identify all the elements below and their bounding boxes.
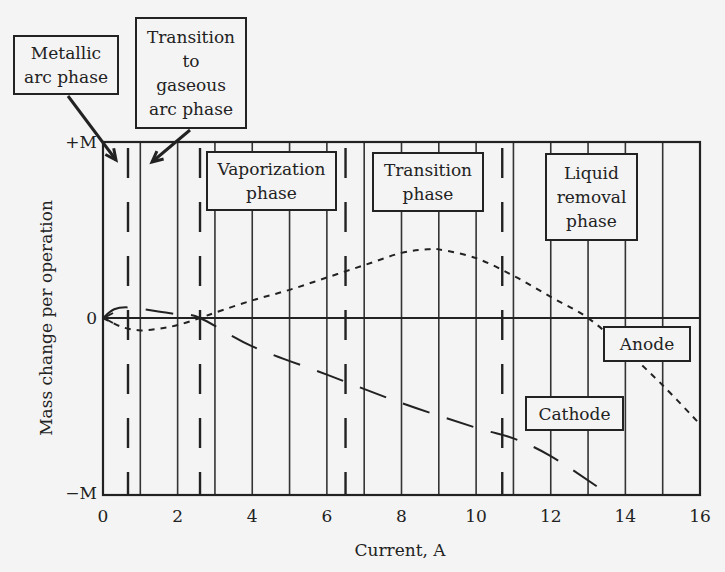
- annotation-liquid: Liquidremovalphase: [546, 154, 637, 240]
- svg-text:phase: phase: [566, 211, 617, 231]
- annotation-anode: Anode: [604, 327, 690, 361]
- x-tick-label: 14: [615, 506, 637, 526]
- x-tick-label: 6: [321, 506, 332, 526]
- transition-gaseous-arrow: [152, 130, 190, 162]
- svg-text:removal: removal: [557, 187, 627, 207]
- x-tick-label: 0: [98, 506, 109, 526]
- x-tick-label: 16: [689, 506, 711, 526]
- svg-text:Liquid: Liquid: [564, 163, 619, 183]
- annotation-metallic: Metallicarc phase: [14, 36, 118, 94]
- x-tick-label: 2: [172, 506, 183, 526]
- y-tick-label: +M: [65, 132, 97, 152]
- svg-text:arc phase: arc phase: [24, 67, 108, 87]
- svg-text:gaseous: gaseous: [156, 75, 226, 95]
- x-tick-label: 10: [465, 506, 487, 526]
- svg-text:arc phase: arc phase: [149, 99, 233, 119]
- y-tick-label: −M: [65, 483, 97, 503]
- svg-text:phase: phase: [246, 183, 297, 203]
- svg-text:Metallic: Metallic: [31, 43, 101, 63]
- x-axis-label: Current, A: [354, 540, 446, 560]
- chart-canvas: 0246810121416 +M0−M Current, A Mass chan…: [0, 0, 725, 572]
- annotation-transition: Transitionphase: [373, 153, 483, 211]
- svg-text:Cathode: Cathode: [538, 404, 610, 424]
- svg-text:phase: phase: [403, 184, 454, 204]
- annotation-vaporization: Vaporizationphase: [207, 152, 336, 210]
- svg-text:Transition: Transition: [384, 160, 472, 180]
- x-tick-label: 12: [540, 506, 562, 526]
- annotation-cathode: Cathode: [526, 397, 623, 430]
- x-tick-label: 4: [247, 506, 258, 526]
- x-tick-label: 8: [396, 506, 407, 526]
- annotation-transition-gaseous: Transitiontogaseousarc phase: [136, 18, 246, 128]
- y-axis-label: Mass change per operation: [36, 200, 56, 436]
- y-tick-label: 0: [86, 308, 97, 328]
- svg-text:Transition: Transition: [147, 27, 235, 47]
- svg-text:Vaporization: Vaporization: [216, 159, 325, 179]
- svg-text:Anode: Anode: [619, 334, 674, 354]
- x-axis-tick-labels: 0246810121416: [98, 506, 711, 526]
- svg-text:to: to: [182, 51, 199, 71]
- y-axis-tick-labels: +M0−M: [65, 132, 97, 503]
